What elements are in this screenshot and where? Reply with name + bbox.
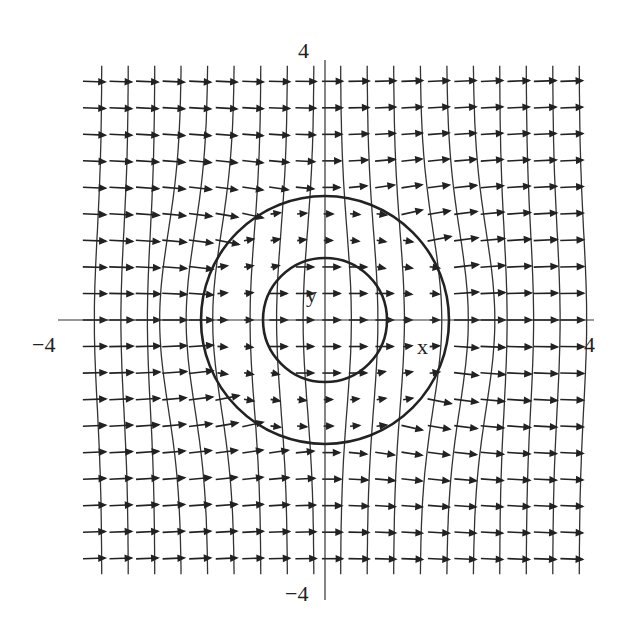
x-min-tick-label: −4 (32, 334, 55, 356)
arrowhead-icon (283, 502, 289, 507)
arrowhead-icon (126, 502, 132, 507)
arrowhead-icon (232, 394, 238, 399)
arrowhead-icon (327, 211, 333, 216)
arrowhead-icon (470, 557, 476, 562)
arrowhead-icon (576, 131, 582, 136)
arrowhead-icon (307, 264, 313, 269)
arrowhead-icon (152, 502, 158, 507)
arrowhead-icon (99, 529, 105, 534)
arrowhead-icon (309, 132, 315, 137)
arrowhead-icon (577, 264, 583, 269)
arrowhead-icon (576, 557, 582, 562)
arrowhead-icon (231, 502, 237, 507)
arrowhead-icon (152, 79, 158, 84)
arrowhead-icon (100, 212, 106, 217)
arrowhead-icon (443, 478, 449, 483)
arrowhead-icon (204, 556, 210, 561)
arrowhead-icon (361, 158, 367, 163)
arrowhead-icon (99, 449, 105, 454)
arrowhead-icon (443, 504, 449, 509)
arrowhead-icon (274, 211, 280, 216)
arrowhead-icon (379, 397, 385, 402)
arrowhead-icon (523, 504, 529, 509)
arrowhead-icon (496, 530, 502, 535)
arrowhead-icon (100, 370, 106, 375)
arrowhead-icon (360, 184, 366, 189)
arrowhead-icon (523, 131, 529, 136)
arrowhead-icon (283, 529, 289, 534)
arrowhead-icon (257, 106, 263, 111)
arrowhead-icon (550, 530, 556, 535)
arrowhead-icon (207, 292, 213, 297)
arrowhead-icon (352, 397, 358, 402)
arrowhead-icon (309, 503, 315, 508)
arrowhead-icon (497, 478, 503, 483)
arrowhead-icon (126, 423, 132, 428)
arrowhead-icon (246, 291, 252, 296)
arrowhead-icon (179, 422, 185, 427)
arrowhead-icon (550, 131, 556, 136)
arrowhead-icon (257, 502, 263, 507)
arrowhead-icon (388, 157, 394, 162)
arrowhead-icon (550, 557, 556, 562)
arrowhead-icon (152, 556, 158, 561)
arrowhead-icon (406, 265, 412, 270)
arrowhead-icon (551, 398, 557, 403)
arrowhead-icon (496, 504, 502, 509)
arrowhead-icon (153, 396, 159, 401)
arrowhead-icon (299, 238, 305, 243)
arrowhead-icon (472, 372, 478, 377)
arrowhead-icon (178, 159, 184, 164)
arrowhead-icon (379, 238, 385, 243)
arrowhead-icon (310, 556, 316, 561)
arrowhead-icon (257, 79, 263, 84)
arrowhead-icon (205, 186, 211, 191)
arrowhead-icon (445, 235, 451, 240)
arrowhead-icon (390, 78, 396, 83)
arrowhead-icon (127, 370, 133, 375)
arrowhead-icon (472, 290, 478, 295)
arrowhead-icon (300, 424, 306, 429)
arrowhead-icon (443, 557, 449, 562)
arrowhead-icon (523, 557, 529, 562)
arrowhead-icon (406, 238, 412, 243)
arrowhead-icon (231, 186, 237, 191)
arrowhead-icon (247, 397, 253, 402)
arrowhead-icon (470, 78, 476, 83)
arrowhead-icon (406, 291, 412, 296)
arrowhead-icon (205, 159, 211, 164)
arrowhead-icon (335, 477, 341, 482)
arrowhead-icon (443, 452, 449, 457)
arrowhead-icon (180, 343, 186, 348)
arrowhead-icon (221, 291, 227, 296)
arrowhead-icon (100, 423, 106, 428)
arrowhead-icon (578, 291, 584, 296)
arrowhead-icon (153, 239, 159, 244)
arrowhead-icon (498, 237, 504, 242)
arrowhead-icon (152, 476, 158, 481)
arrowhead-icon (126, 132, 132, 137)
arrowhead-icon (523, 105, 529, 110)
arrowhead-icon (416, 157, 422, 162)
arrowhead-icon (334, 344, 340, 349)
arrowhead-icon (443, 78, 449, 83)
arrowhead-icon (387, 291, 393, 296)
arrowhead-icon (179, 213, 185, 218)
arrowhead-icon (362, 503, 368, 508)
arrowhead-icon (178, 476, 184, 481)
arrowhead-icon (577, 237, 583, 242)
arrowhead-icon (499, 290, 505, 295)
arrowhead-icon (231, 159, 237, 164)
arrowhead-icon (416, 426, 422, 431)
arrowhead-icon (577, 371, 583, 376)
arrowhead-icon (152, 529, 158, 534)
arrowhead-icon (496, 131, 502, 136)
arrowhead-icon (257, 159, 263, 164)
arrowhead-icon (551, 264, 557, 269)
arrowhead-icon (498, 398, 504, 403)
arrowhead-icon (154, 370, 160, 375)
arrowhead-icon (281, 344, 287, 349)
arrowhead-icon (524, 398, 530, 403)
arrowhead-icon (524, 237, 530, 242)
arrowhead-icon (99, 556, 105, 561)
